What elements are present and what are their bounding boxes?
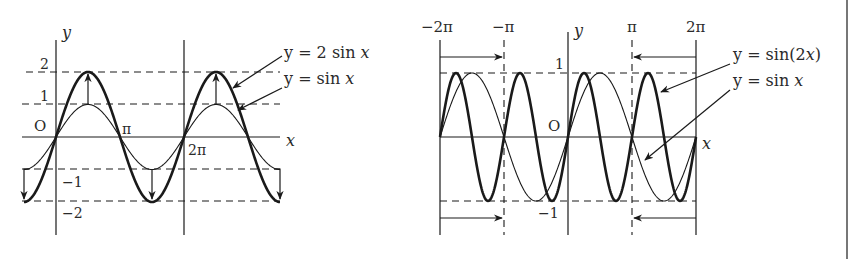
left-label-arrows [233,56,282,110]
left-tick-m1: −1 [62,174,83,190]
right-tick-minus-pi: −π [492,18,515,36]
right-graph: −2π −π y π 2π 1 −1 O x y = sin(2x) y = s… [421,18,821,235]
left-tick-2: 2 [40,56,49,72]
right-tick-1: 1 [555,56,564,72]
right-tick-minus-2pi: −2π [421,18,453,36]
left-y-axis-label: y [61,23,72,42]
left-x-axis-label: x [286,131,295,150]
legend-label-sin-2x: y = sin(2x) [732,45,821,64]
left-tick-m2: −2 [62,205,83,221]
left-graph: y x O π 2π 2 1 −1 −2 y = 2 sin x y = sin… [22,23,370,235]
left-tick-1: 1 [40,88,49,104]
left-origin-label: O [34,117,46,135]
right-tick-pi: π [627,18,637,36]
right-tick-m1: −1 [538,205,559,221]
left-tick-2pi: 2π [188,142,206,158]
legend-label-sin-x-right: y = sin x [732,71,803,90]
legend-label-sin-x-left: y = sin x [283,69,354,88]
right-border [846,0,848,259]
right-x-axis-label: x [702,134,711,153]
right-label-arrows [645,64,730,160]
right-y-axis-label: y [573,21,584,40]
right-tick-2pi: 2π [686,18,706,36]
legend-label-2sin-x: y = 2 sin x [283,43,370,62]
left-tick-pi: π [122,121,131,137]
figure-stage: y x O π 2π 2 1 −1 −2 y = 2 sin x y = sin… [0,0,850,259]
right-origin-label: O [548,117,560,135]
